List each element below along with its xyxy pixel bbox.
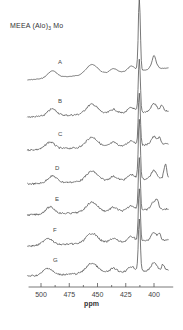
x-tick-label: 425 <box>120 291 132 298</box>
spectrum-trace-e <box>27 158 168 216</box>
trace-label-e: E <box>55 196 59 202</box>
trace-label-g: G <box>53 257 58 263</box>
spectrum-trace-a <box>27 0 168 80</box>
spectrum-trace-f <box>27 189 168 247</box>
x-axis <box>29 283 174 287</box>
trace-label-c: C <box>58 131 63 137</box>
x-tick-label: 475 <box>63 291 75 298</box>
trace-label-b: B <box>58 98 62 104</box>
spectrum-trace-d <box>27 119 168 184</box>
x-axis-label: ppm <box>0 300 183 307</box>
nmr-spectra-plot: ABCDEFG 500475450425400 <box>0 0 183 330</box>
spectrum-trace-g <box>27 219 168 276</box>
trace-label-d: D <box>55 165 60 171</box>
trace-labels: ABCDEFG <box>53 59 63 263</box>
x-tick-labels: 500475450425400 <box>35 291 160 298</box>
x-tick-label: 500 <box>35 291 47 298</box>
x-tick-label: 450 <box>92 291 104 298</box>
spectrum-trace-c <box>27 93 168 151</box>
trace-label-a: A <box>58 59 62 65</box>
spectra-traces <box>27 0 168 276</box>
trace-label-f: F <box>53 227 57 233</box>
x-tick-label: 400 <box>148 291 160 298</box>
